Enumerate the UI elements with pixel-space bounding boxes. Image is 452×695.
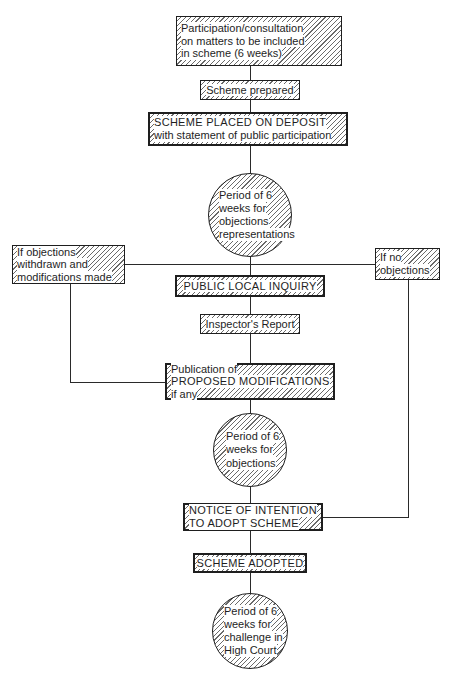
node-publication-line-2: PROPOSED MODIFICATIONS bbox=[171, 375, 330, 388]
connector-withdrawn-down bbox=[70, 284, 71, 383]
node-period1-line-3: objections bbox=[219, 215, 269, 228]
node-no-objections-line-1: If no bbox=[380, 251, 401, 264]
connector-no-objections-down bbox=[408, 280, 409, 518]
node-scheme-deposit-line-1: SCHEME PLACED ON DEPOSIT bbox=[154, 116, 326, 129]
node-withdrawn-line-3: modifications made bbox=[17, 271, 112, 284]
node-period3-line-3: challenge in bbox=[224, 631, 283, 644]
node-adopted-label: SCHEME ADOPTED bbox=[197, 557, 304, 570]
node-period-high-court-challenge: Period of 6 weeks for challenge in High … bbox=[212, 593, 288, 669]
node-publication-proposed-modifications: Publication of PROPOSED MODIFICATIONS if… bbox=[165, 363, 335, 400]
node-scheme-deposit: SCHEME PLACED ON DEPOSIT with statement … bbox=[148, 112, 348, 146]
node-period3-line-4: High Court bbox=[224, 644, 277, 657]
connector-publication-period2 bbox=[250, 400, 251, 413]
connector-period2-notice bbox=[250, 487, 251, 503]
node-public-local-inquiry: PUBLIC LOCAL INQUIRY bbox=[175, 275, 325, 297]
connector-prepared-deposit bbox=[250, 100, 251, 112]
node-notice-line-2: TO ADOPT SCHEME bbox=[189, 517, 299, 530]
connector-adopted-period3 bbox=[250, 573, 251, 593]
node-no-objections-line-2: objections bbox=[380, 264, 430, 277]
node-objections-withdrawn: If objections withdrawn and modification… bbox=[12, 245, 125, 284]
node-period2-line-1: Period of 6 bbox=[226, 430, 279, 443]
connector-participation-prepared bbox=[250, 66, 251, 80]
node-scheme-adopted: SCHEME ADOPTED bbox=[193, 553, 307, 573]
node-report-label: Inspector's Report bbox=[206, 318, 295, 331]
node-participation-line-2: on matters to be included bbox=[181, 35, 305, 48]
node-participation: Participation/consultation on matters to… bbox=[176, 16, 342, 66]
node-period1-line-1: Period of 6 bbox=[219, 189, 272, 202]
node-period3-line-1: Period of 6 bbox=[224, 605, 277, 618]
connector-inquiry-report bbox=[250, 297, 251, 314]
node-period1-line-4: representations bbox=[219, 228, 295, 241]
connector-notice-adopted bbox=[250, 531, 251, 553]
node-notice-of-intention: NOTICE OF INTENTION TO ADOPT SCHEME bbox=[183, 503, 323, 531]
node-withdrawn-line-1: If objections bbox=[17, 246, 76, 259]
node-publication-line-1: Publication of bbox=[171, 363, 237, 376]
node-period3-line-2: weeks for bbox=[224, 618, 271, 631]
node-no-objections: If no objections bbox=[375, 248, 440, 280]
node-period1-line-2: weeks for bbox=[219, 202, 266, 215]
connector-branch-horizontal bbox=[125, 264, 375, 265]
node-inquiry-label: PUBLIC LOCAL INQUIRY bbox=[183, 280, 316, 293]
node-withdrawn-line-2: withdrawn and bbox=[17, 258, 88, 271]
connector-report-publication bbox=[250, 334, 251, 363]
node-publication-line-3: if any bbox=[171, 388, 197, 401]
connector-no-objections-notice bbox=[323, 517, 409, 518]
connector-deposit-period1 bbox=[250, 146, 251, 173]
node-notice-line-1: NOTICE OF INTENTION bbox=[189, 504, 317, 517]
node-scheme-deposit-line-2: with statement of public participation bbox=[154, 129, 331, 142]
node-period2-line-3: objections bbox=[226, 457, 276, 470]
node-participation-line-1: Participation/consultation bbox=[181, 22, 303, 35]
node-period-objections: Period of 6 weeks for objections bbox=[213, 413, 287, 487]
node-scheme-prepared-label: Scheme prepared bbox=[206, 84, 293, 97]
node-scheme-prepared: Scheme prepared bbox=[200, 80, 300, 100]
connector-withdrawn-publication bbox=[70, 382, 165, 383]
node-period-objections-representations: Period of 6 weeks for objections represe… bbox=[208, 173, 292, 257]
node-period2-line-2: weeks for bbox=[226, 443, 273, 456]
node-participation-line-3: in scheme (6 weeks) bbox=[181, 47, 282, 60]
node-inspectors-report: Inspector's Report bbox=[200, 314, 300, 334]
